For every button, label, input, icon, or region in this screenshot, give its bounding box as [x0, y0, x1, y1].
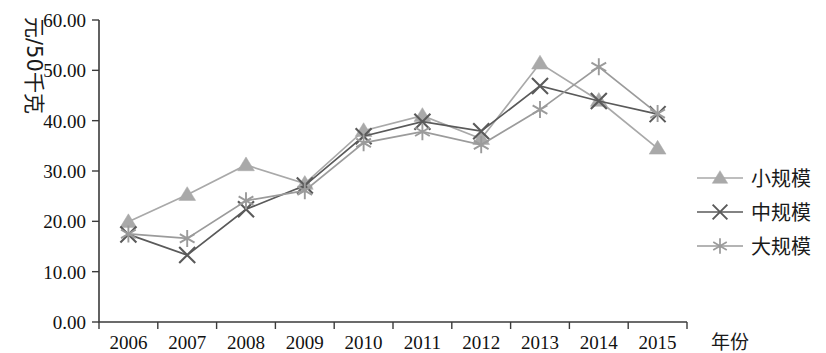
marker-asterisk: [533, 101, 548, 118]
y-tick-label: 20.00: [43, 211, 86, 232]
data-series-group: [120, 55, 666, 263]
y-tick-label: 10.00: [43, 262, 86, 283]
x-tick-label: 2007: [168, 332, 206, 353]
x-axis-title-group: 年份: [711, 331, 749, 353]
x-tick-label: 2015: [639, 332, 677, 353]
line-chart: 元/50千克 0.0010.0020.0030.0040.0050.0060.0…: [0, 0, 826, 353]
legend-item-3[interactable]: 大规模: [697, 235, 811, 259]
x-tick-label: 2013: [521, 332, 559, 353]
x-tick-label: 2012: [462, 332, 500, 353]
marker-triangle: [238, 157, 255, 171]
x-tick-label: 2009: [286, 332, 324, 353]
x-tick-label: 2011: [404, 332, 441, 353]
marker-asterisk: [591, 58, 606, 75]
y-tick-label: 30.00: [43, 161, 86, 182]
marker-triangle: [532, 55, 549, 69]
legend-item-2[interactable]: 中规模: [697, 201, 811, 225]
series-line: [128, 63, 657, 222]
series-2: [120, 78, 665, 263]
x-tick-label: 2006: [109, 332, 147, 353]
marker-triangle: [179, 187, 196, 201]
x-axis-ticks-group: 2006200720082009201020112012201320142015: [99, 322, 687, 353]
x-axis-title: 年份: [711, 331, 749, 353]
marker-x: [179, 247, 195, 263]
marker-triangle: [712, 171, 727, 184]
y-tick-label: 60.00: [43, 10, 86, 31]
x-tick-label: 2014: [580, 332, 619, 353]
marker-triangle: [649, 140, 666, 154]
series-line: [128, 67, 657, 239]
series-1: [120, 55, 666, 227]
x-tick-label: 2010: [345, 332, 383, 353]
marker-x: [532, 78, 548, 94]
series-line: [128, 86, 657, 255]
legend-group: 小规模中规模大规模: [697, 167, 811, 259]
legend-label: 中规模: [751, 201, 811, 225]
series-3: [121, 58, 665, 247]
y-tick-label: 50.00: [43, 60, 86, 81]
y-tick-label: 40.00: [43, 111, 86, 132]
legend-label: 小规模: [751, 167, 811, 191]
y-tick-label: 0.00: [53, 312, 86, 333]
chart-canvas: 元/50千克 0.0010.0020.0030.0040.0050.0060.0…: [0, 0, 826, 353]
y-axis-ticks-group: 0.0010.0020.0030.0040.0050.0060.00: [43, 10, 99, 333]
legend-item-1[interactable]: 小规模: [697, 167, 811, 191]
legend-label: 大规模: [751, 235, 811, 259]
x-tick-label: 2008: [227, 332, 265, 353]
